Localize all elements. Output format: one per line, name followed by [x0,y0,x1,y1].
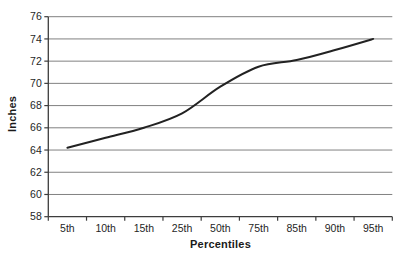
chart-canvas: 586062646668707274765th10th15th25th50th7… [0,0,406,265]
y-tick-label: 70 [30,77,42,89]
x-tick-label: 50th [210,222,231,234]
x-axis-title: Percentiles [48,238,393,250]
y-tick-label: 66 [30,121,42,133]
y-tick-label: 76 [30,10,42,22]
x-tick-label: 25th [172,222,193,234]
y-tick-label: 64 [30,144,42,156]
x-tick-label: 90th [325,222,346,234]
x-tick-label: 75th [248,222,269,234]
y-tick-label: 60 [30,188,42,200]
y-axis-title: Inches [6,74,18,154]
y-tick-label: 62 [30,166,42,178]
y-tick-label: 74 [30,33,42,45]
data-line-series [67,39,373,148]
y-tick-label: 72 [30,55,42,67]
y-tick-label: 68 [30,99,42,111]
x-tick-label: 15th [134,222,155,234]
x-tick-label: 95th [363,222,384,234]
x-tick-label: 10th [95,222,116,234]
y-tick-label: 58 [30,210,42,222]
x-tick-label: 5th [60,222,75,234]
height-percentiles-line-chart: 586062646668707274765th10th15th25th50th7… [0,0,406,265]
x-tick-label: 85th [287,222,308,234]
